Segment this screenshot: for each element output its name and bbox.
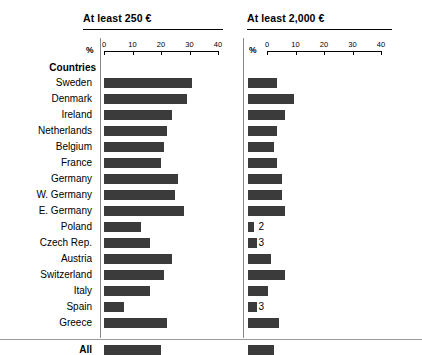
bar-b-italy — [248, 286, 268, 296]
bar-a-czech-rep — [104, 238, 150, 248]
axis-tick-2-10 — [296, 51, 297, 55]
axis-tick-2-0 — [267, 51, 268, 55]
chart-root: At least 250 € At least 2,000 € % 010203… — [0, 0, 422, 355]
bar-b-ireland — [248, 110, 285, 120]
axis-tick-1-20 — [161, 51, 162, 55]
row-label-germany: Germany — [0, 173, 92, 184]
axis-tick-2-20 — [324, 51, 325, 55]
row-label-w-germany: W. Germany — [0, 189, 92, 200]
bar-b-belgium — [248, 142, 274, 152]
axis-tick-label-2-20: 20 — [320, 40, 328, 49]
axis-tick-label-1-10: 10 — [128, 40, 136, 49]
bar-a-netherlands — [104, 126, 167, 136]
chart-row: Greece2211 — [0, 315, 422, 331]
bar-b-poland — [248, 222, 254, 232]
axis-tick-label-1-0: 0 — [102, 40, 106, 49]
bar-b-switzerland — [248, 270, 285, 280]
row-label-france: France — [0, 157, 92, 168]
chart-row: Poland132 — [0, 219, 422, 235]
row-label-italy: Italy — [0, 285, 92, 296]
axis-tick-label-2-0: 0 — [265, 40, 269, 49]
bar-a-poland — [104, 222, 141, 232]
axis-tick-1-0 — [104, 51, 105, 55]
row-label-sweden: Sweden — [0, 77, 92, 88]
axis-tick-1-30 — [190, 51, 191, 55]
bar-a-belgium — [104, 142, 164, 152]
row-label-belgium: Belgium — [0, 141, 92, 152]
axis-unit-label-1: % — [86, 45, 94, 55]
chart-row: Belgium219 — [0, 139, 422, 155]
panel-title-at-least-2000: At least 2,000 € — [247, 12, 324, 24]
axis-tick-2-30 — [353, 51, 354, 55]
bar-a-ireland — [104, 110, 172, 120]
panel-title-at-least-250: At least 250 € — [83, 12, 152, 24]
axis-at-least-2000: % 010203040 — [249, 38, 384, 58]
row-label-spain: Spain — [0, 301, 92, 312]
bar-b-sweden — [248, 78, 277, 88]
bar-b-w-germany — [248, 190, 282, 200]
bar-b-netherlands — [248, 126, 277, 136]
bar-a-germany — [104, 174, 178, 184]
row-label-all: All — [0, 344, 92, 355]
row-label-netherlands: Netherlands — [0, 125, 92, 136]
axis-at-least-250: % 010203040 — [86, 38, 221, 58]
chart-row: Czech Rep.163 — [0, 235, 422, 251]
bar-a-greece — [104, 318, 167, 328]
section-header-countries: Countries — [0, 62, 96, 73]
axis-tick-1-40 — [218, 51, 219, 55]
chart-row: Italy167 — [0, 283, 422, 299]
chart-row: France2010 — [0, 155, 422, 171]
axis-unit-label-2: % — [249, 45, 257, 55]
bar-a-spain — [104, 302, 124, 312]
row-label-switzerland: Switzerland — [0, 269, 92, 280]
bottom-rule — [0, 339, 422, 340]
axis-tick-2-40 — [381, 51, 382, 55]
bar-b-greece — [248, 318, 279, 328]
chart-row: W. Germany2512 — [0, 187, 422, 203]
row-label-czech-rep: Czech Rep. — [0, 237, 92, 248]
chart-row: Sweden3110 — [0, 75, 422, 91]
row-label-e-germany: E. Germany — [0, 205, 92, 216]
bar-a-w-germany — [104, 190, 175, 200]
bar-a-sweden — [104, 78, 192, 88]
chart-row: Netherlands2210 — [0, 123, 422, 139]
bar-a-all — [104, 345, 161, 355]
chart-row: Ireland2413 — [0, 107, 422, 123]
axis-tick-label-2-40: 40 — [377, 40, 385, 49]
bar-b-all — [248, 345, 274, 355]
bar-b-denmark — [248, 94, 294, 104]
axis-tick-label-1-20: 20 — [157, 40, 165, 49]
bar-b-austria — [248, 254, 271, 264]
chart-row: Spain73 — [0, 299, 422, 315]
bar-a-italy — [104, 286, 150, 296]
panel-rule-1 — [83, 29, 223, 30]
bar-a-e-germany — [104, 206, 184, 216]
bar-a-austria — [104, 254, 172, 264]
row-label-greece: Greece — [0, 317, 92, 328]
chart-row: E. Germany2813 — [0, 203, 422, 219]
chart-row: Switzerland2113 — [0, 267, 422, 283]
axis-tick-label-1-40: 40 — [214, 40, 222, 49]
chart-row: Germany2612 — [0, 171, 422, 187]
bar-a-denmark — [104, 94, 187, 104]
axis-tick-label-2-10: 10 — [291, 40, 299, 49]
row-label-denmark: Denmark — [0, 93, 92, 104]
bar-b-france — [248, 158, 277, 168]
axis-tick-label-2-30: 30 — [348, 40, 356, 49]
row-label-austria: Austria — [0, 253, 92, 264]
panel-rule-2 — [247, 29, 392, 30]
bar-b-e-germany — [248, 206, 285, 216]
bar-b-spain — [248, 302, 257, 312]
bar-b-czech-rep — [248, 238, 257, 248]
row-label-ireland: Ireland — [0, 109, 92, 120]
chart-row: Austria248 — [0, 251, 422, 267]
axis-tick-label-1-30: 30 — [185, 40, 193, 49]
bar-b-germany — [248, 174, 282, 184]
chart-row: All209 — [0, 342, 422, 355]
chart-row: Denmark2916 — [0, 91, 422, 107]
row-label-poland: Poland — [0, 221, 92, 232]
bar-a-france — [104, 158, 161, 168]
bar-a-switzerland — [104, 270, 164, 280]
axis-tick-1-10 — [133, 51, 134, 55]
